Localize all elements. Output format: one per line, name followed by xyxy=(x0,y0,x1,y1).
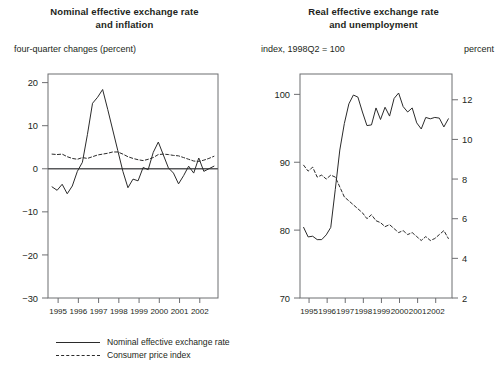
figure-root: Nominal effective exchange rate and infl… xyxy=(0,0,498,372)
x-axis-tick-label: 1997 xyxy=(90,307,108,316)
y-axis-tick-label: 0 xyxy=(33,164,38,174)
x-axis-tick-label: 1995 xyxy=(300,307,318,316)
series-line-solid xyxy=(304,93,449,240)
right-chart-svg: 1009080701210864219951996199719981999200… xyxy=(249,0,498,330)
legend-item-label: Consumer price index xyxy=(107,350,191,361)
right-chart-panel: Real effective exchange rate and unemplo… xyxy=(249,0,498,372)
x-axis-tick-label: 2001 xyxy=(171,307,189,316)
y-axis-tick-label: 20 xyxy=(28,78,38,88)
y2-axis-tick-label: 10 xyxy=(462,135,472,145)
y-axis-tick-label: −10 xyxy=(22,207,38,217)
left-chart-legend: Nominal effective exchange rate Consumer… xyxy=(56,336,230,362)
series-line-dashed xyxy=(304,165,449,240)
series-line-solid xyxy=(52,90,214,194)
series-line-dashed xyxy=(52,152,214,161)
x-axis-tick-label: 2002 xyxy=(427,307,445,316)
legend-line-solid-icon xyxy=(56,338,100,348)
y2-axis-tick-label: 2 xyxy=(462,294,467,304)
x-axis-tick-label: 2000 xyxy=(391,307,409,316)
plot-frame xyxy=(48,74,218,298)
legend-item: Consumer price index xyxy=(56,349,230,362)
y2-axis-tick-label: 4 xyxy=(462,254,467,264)
y-axis-tick-label: 90 xyxy=(280,158,290,168)
x-axis-tick-label: 1998 xyxy=(354,307,372,316)
left-chart-svg: 20100−10−20−3019951996199719981999200020… xyxy=(0,0,249,330)
right-plot-area: 1009080701210864219951996199719981999200… xyxy=(249,0,498,372)
x-axis-tick-label: 1998 xyxy=(110,307,128,316)
x-axis-tick-label: 2002 xyxy=(191,307,209,316)
y2-axis-tick-label: 6 xyxy=(462,214,467,224)
x-axis-tick-label: 2000 xyxy=(150,307,168,316)
y2-axis-tick-label: 8 xyxy=(462,175,467,185)
x-axis-tick-label: 1999 xyxy=(130,307,148,316)
legend-line-dashed-icon xyxy=(56,351,100,361)
y-axis-tick-label: 10 xyxy=(28,121,38,131)
x-axis-tick-label: 1997 xyxy=(336,307,354,316)
x-axis-tick-label: 2001 xyxy=(409,307,427,316)
legend-item: Nominal effective exchange rate xyxy=(56,336,230,349)
y-axis-tick-label: 80 xyxy=(280,226,290,236)
left-chart-panel: Nominal effective exchange rate and infl… xyxy=(0,0,249,372)
x-axis-tick-label: 1996 xyxy=(69,307,87,316)
y2-axis-tick-label: 12 xyxy=(462,95,472,105)
y-axis-tick-label: 70 xyxy=(280,294,290,304)
x-axis-tick-label: 1995 xyxy=(49,307,67,316)
x-axis-tick-label: 1996 xyxy=(318,307,336,316)
y-axis-tick-label: −30 xyxy=(22,294,38,304)
legend-item-label: Nominal effective exchange rate xyxy=(107,337,230,348)
y-axis-tick-label: 100 xyxy=(274,90,290,100)
y-axis-tick-label: −20 xyxy=(22,251,38,261)
x-axis-tick-label: 1999 xyxy=(373,307,391,316)
left-plot-area: 20100−10−20−3019951996199719981999200020… xyxy=(0,0,249,372)
